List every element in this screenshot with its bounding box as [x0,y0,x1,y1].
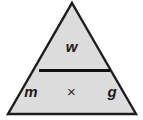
numerator-label: w [0,39,143,54]
multiply-operator-icon: × [67,84,76,99]
right-factor-label: g [95,84,129,99]
triangle-shape [0,0,143,120]
denominator-row: m × g [14,82,129,100]
formula-triangle-figure: w m × g [0,0,143,120]
left-factor-label: m [14,84,48,99]
